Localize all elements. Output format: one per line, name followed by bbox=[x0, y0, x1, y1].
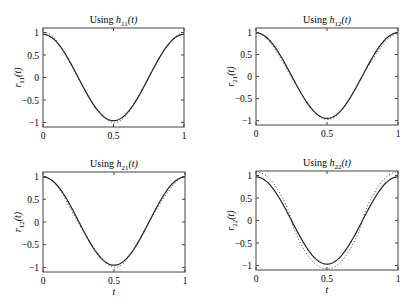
subplot-3: 10.50−0.5−100.51Using h21(t)r12(t)t bbox=[12, 158, 188, 297]
y-tick-label: 0.5 bbox=[27, 51, 39, 61]
axes-box bbox=[256, 28, 398, 125]
x-tick-label: 1 bbox=[396, 129, 401, 139]
subplot-1: 10.50−0.5−100.51Using h11(t)r11(t) bbox=[12, 14, 187, 141]
solid-curve bbox=[43, 177, 185, 265]
axes-box bbox=[43, 28, 184, 127]
x-axis-label: t bbox=[113, 286, 116, 297]
x-tick-label: 0.5 bbox=[321, 274, 333, 284]
y-tick-label: 0 bbox=[34, 73, 39, 83]
y-tick-label: −0.5 bbox=[22, 96, 39, 106]
solid-curve bbox=[256, 33, 398, 119]
y-tick-label: 1 bbox=[247, 28, 252, 38]
y-axis-label: r22(t) bbox=[225, 210, 239, 231]
subplot-title: Using h11(t) bbox=[90, 14, 138, 28]
subplot-title: Using h21(t) bbox=[90, 158, 139, 172]
x-tick-label: 0.5 bbox=[321, 129, 333, 139]
y-tick-label: 1 bbox=[34, 172, 39, 182]
y-tick-label: 0 bbox=[247, 72, 252, 82]
subplot-4: 10.50−0.5−100.51Using h22(t)r22(t)t bbox=[225, 157, 401, 295]
x-axis-label: t bbox=[326, 284, 329, 295]
figure: 10.50−0.5−100.51Using h11(t)r11(t)10.50−… bbox=[0, 0, 413, 308]
y-tick-label: 0 bbox=[34, 218, 39, 228]
y-tick-label: −1 bbox=[29, 263, 39, 273]
x-tick-label: 0.5 bbox=[108, 276, 120, 286]
x-tick-label: 1 bbox=[183, 276, 188, 286]
y-axis-label: r12(t) bbox=[12, 211, 26, 232]
dotted-curve bbox=[43, 177, 185, 267]
x-tick-label: 1 bbox=[396, 274, 401, 284]
x-tick-label: 0 bbox=[41, 276, 46, 286]
subplot-2: 10.50−0.5−100.51Using h12(t)r21(t) bbox=[225, 14, 401, 139]
solid-curve bbox=[256, 177, 398, 264]
dotted-curve bbox=[256, 33, 398, 119]
dotted-curve bbox=[43, 32, 184, 123]
x-tick-label: 0 bbox=[254, 274, 259, 284]
x-tick-label: 0.5 bbox=[108, 131, 120, 141]
y-tick-label: −0.5 bbox=[235, 94, 252, 104]
y-tick-label: 0.5 bbox=[240, 50, 252, 60]
y-tick-label: −0.5 bbox=[22, 240, 39, 250]
x-tick-label: 0 bbox=[254, 129, 259, 139]
y-tick-label: −1 bbox=[29, 118, 39, 128]
solid-curve bbox=[43, 34, 184, 120]
axes-box bbox=[43, 172, 185, 272]
y-tick-label: 0.5 bbox=[27, 195, 39, 205]
y-tick-label: 0.5 bbox=[240, 194, 252, 204]
y-tick-label: 1 bbox=[247, 171, 252, 181]
y-tick-label: 1 bbox=[34, 28, 39, 38]
x-tick-label: 0 bbox=[41, 131, 46, 141]
dotted-curve bbox=[256, 172, 398, 269]
y-axis-label: r21(t) bbox=[225, 66, 239, 87]
axes-box bbox=[256, 171, 398, 270]
y-tick-label: −1 bbox=[242, 116, 252, 126]
subplot-title: Using h12(t) bbox=[303, 14, 352, 28]
subplot-title: Using h22(t) bbox=[303, 157, 352, 171]
y-tick-label: −1 bbox=[242, 261, 252, 271]
y-tick-label: −0.5 bbox=[235, 239, 252, 249]
y-tick-label: 0 bbox=[247, 216, 252, 226]
x-tick-label: 1 bbox=[182, 131, 187, 141]
y-axis-label: r11(t) bbox=[12, 67, 26, 88]
